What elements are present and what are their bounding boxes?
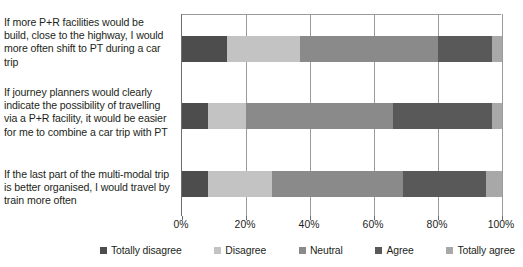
bar-segment [492,103,502,129]
stacked-bar-chart: If more P+R facilities would be build, c… [0,0,523,267]
bar-row-1 [182,103,502,129]
legend-label: Neutral [310,245,343,256]
bar-segment [300,36,438,62]
bar-row-0 [182,36,502,62]
bar-segment [182,171,208,197]
x-axis-label-80: 80% [427,219,448,230]
bar-segment [272,171,403,197]
category-label-2: If the last part of the multi-modal trip… [4,168,170,208]
legend-label: Disagree [225,245,266,256]
bar-segment [393,103,492,129]
legend-swatch-icon [375,247,382,254]
bar-segment [246,103,393,129]
gridline-100 [502,14,503,216]
x-axis-label-60: 60% [363,219,384,230]
x-axis-labels: 0%20%40%60%80%100% [181,219,501,235]
legend-item-3[interactable]: Agree [375,245,413,256]
legend-swatch-icon [299,247,306,254]
x-axis-label-100: 100% [488,219,515,230]
bar-segment [403,171,486,197]
plot-area [181,14,502,216]
bar-row-2 [182,171,502,197]
bar-segment [182,36,227,62]
x-axis-label-20: 20% [235,219,256,230]
bar-segment [486,171,502,197]
category-label-1: If journey planners would clearly indica… [4,86,170,139]
legend-swatch-icon [214,247,221,254]
category-label-0: If more P+R facilities would be build, c… [4,16,170,69]
legend-item-1[interactable]: Disagree [214,245,266,256]
x-axis-label-40: 40% [299,219,320,230]
bar-segment [208,171,272,197]
legend-item-4[interactable]: Totally agree [446,245,515,256]
bar-segment [208,103,246,129]
bar-segment [492,36,502,62]
chart-legend: Totally disagreeDisagreeNeutralAgreeTota… [100,241,515,259]
x-axis-label-0: 0% [173,219,188,230]
legend-label: Agree [386,245,413,256]
bar-segment [438,36,492,62]
legend-swatch-icon [100,247,107,254]
legend-swatch-icon [446,247,453,254]
bar-segment [182,103,208,129]
category-label-group: If more P+R facilities would be build, c… [0,0,178,215]
legend-label: Totally disagree [111,245,182,256]
legend-label: Totally agree [457,245,515,256]
legend-item-2[interactable]: Neutral [299,245,343,256]
bar-segment [227,36,301,62]
legend-item-0[interactable]: Totally disagree [100,245,182,256]
